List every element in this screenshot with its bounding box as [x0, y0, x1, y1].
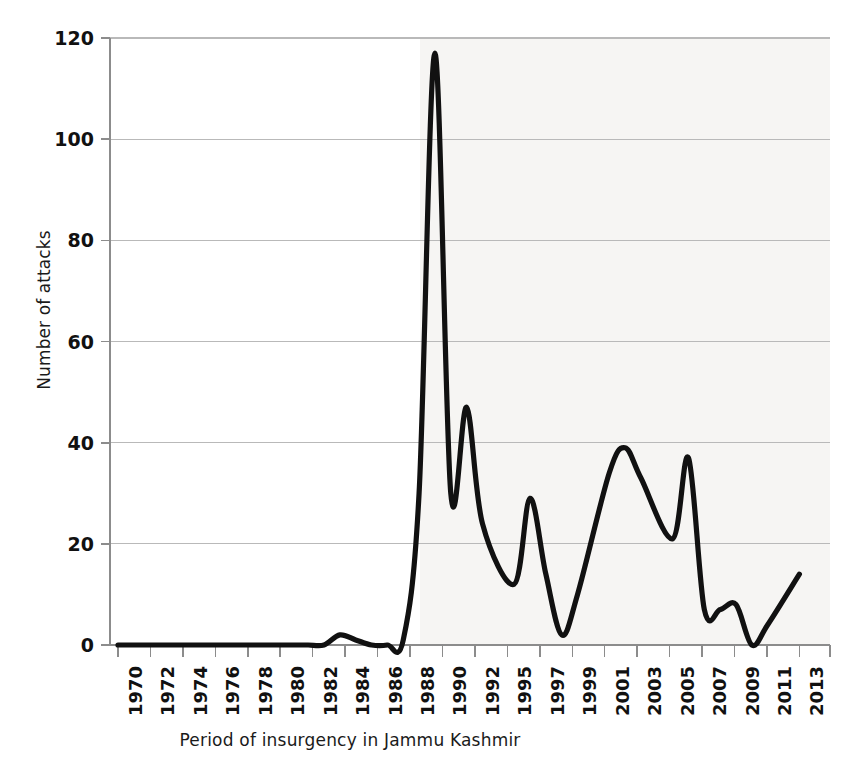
x-tick-label-1980: 1980	[287, 666, 308, 716]
x-tick-label-2005: 2005	[677, 666, 698, 716]
x-tick-label-1976: 1976	[222, 666, 243, 716]
y-tick-label-0: 0	[24, 634, 94, 656]
x-tick-label-2003: 2003	[644, 666, 665, 716]
x-tick-label-2011: 2011	[774, 666, 795, 716]
x-tick-label-1974: 1974	[190, 666, 211, 716]
y-axis-ticks	[101, 38, 110, 645]
x-axis-title: Period of insurgency in Jammu Kashmir	[0, 730, 700, 750]
x-tick-label-1988: 1988	[417, 666, 438, 716]
data-series-line	[118, 53, 799, 652]
y-tick-label-120: 120	[24, 27, 94, 49]
x-tick-label-1986: 1986	[385, 666, 406, 716]
x-tick-label-1992: 1992	[482, 666, 503, 716]
x-tick-label-2009: 2009	[742, 666, 763, 716]
y-tick-label-100: 100	[24, 128, 94, 150]
x-tick-label-2007: 2007	[709, 666, 730, 716]
x-tick-label-1997: 1997	[547, 666, 568, 716]
x-tick-label-1995: 1995	[514, 666, 535, 716]
x-tick-label-2001: 2001	[612, 666, 633, 716]
x-tick-label-1990: 1990	[449, 666, 470, 716]
x-tick-label-1978: 1978	[255, 666, 276, 716]
y-axis-title: Number of attacks	[34, 170, 54, 450]
x-tick-label-1970: 1970	[125, 666, 146, 716]
x-tick-label-1999: 1999	[579, 666, 600, 716]
plot-canvas	[0, 0, 860, 775]
x-tick-label-1984: 1984	[352, 666, 373, 716]
chart-figure: 120 100 80 60 40 20 0 Number of attacks …	[0, 0, 860, 775]
x-tick-label-1972: 1972	[157, 666, 178, 716]
x-tick-label-2013: 2013	[806, 666, 827, 716]
y-tick-label-20: 20	[24, 533, 94, 555]
y-gridlines	[110, 38, 830, 544]
x-tick-label-1982: 1982	[320, 666, 341, 716]
